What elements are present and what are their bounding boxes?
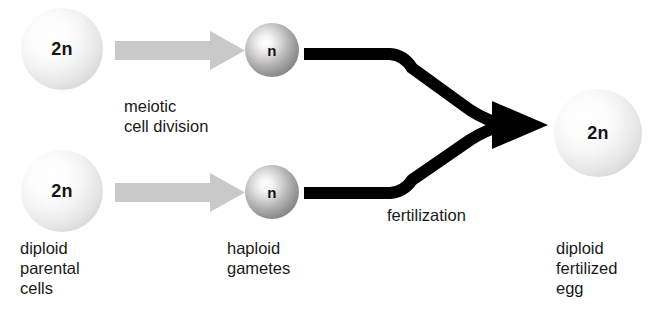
diploid-fertilized-egg-label: diploid fertilized egg xyxy=(556,238,617,298)
meiotic-arrow-bottom-icon xyxy=(115,173,245,212)
diploid-parental-cells-label: diploid parental cells xyxy=(20,238,80,298)
haploid-gamete-cell-bottom: n xyxy=(245,165,299,219)
fertilization-label: fertilization xyxy=(387,205,466,225)
cell-ploidy-label: 2n xyxy=(21,8,103,90)
cell-ploidy-label: n xyxy=(245,23,299,77)
cell-ploidy-label: n xyxy=(245,165,299,219)
diploid-zygote-cell: 2n xyxy=(554,89,642,177)
diploid-parent-cell-top: 2n xyxy=(21,8,103,90)
cell-ploidy-label: 2n xyxy=(554,89,642,177)
fertilization-arrowhead-icon xyxy=(492,101,548,149)
meiotic-arrow-top-icon xyxy=(115,31,245,70)
haploid-gamete-cell-top: n xyxy=(245,23,299,77)
diploid-parent-cell-bottom: 2n xyxy=(21,150,103,232)
haploid-gametes-label: haploid gametes xyxy=(227,238,290,278)
cell-ploidy-label: 2n xyxy=(21,150,103,232)
meiosis-fertilization-diagram: 2n 2n n n 2n meiotic cell division diplo… xyxy=(0,0,653,329)
meiotic-cell-division-label: meiotic cell division xyxy=(124,96,208,136)
fertilization-arrow-icon xyxy=(304,54,505,193)
